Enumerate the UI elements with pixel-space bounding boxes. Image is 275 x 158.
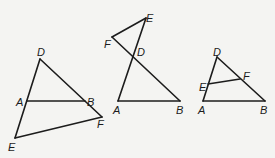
point-label-B: B: [176, 104, 183, 116]
point-label-A: A: [197, 104, 205, 116]
segment-EF: [208, 79, 240, 84]
point-label-F: F: [104, 38, 112, 50]
figure-3: DEFAB: [197, 46, 267, 116]
point-label-F: F: [243, 70, 251, 82]
segment-DB: [217, 57, 265, 101]
figure-2: EFDAB: [104, 12, 183, 116]
segment-DA: [203, 57, 217, 101]
point-label-D: D: [137, 46, 145, 58]
point-label-F: F: [97, 118, 105, 130]
segment-EF: [15, 117, 102, 138]
point-label-A: A: [15, 96, 23, 108]
segment-FB: [112, 37, 180, 101]
point-label-D: D: [213, 46, 221, 58]
point-label-B: B: [87, 96, 94, 108]
point-label-E: E: [8, 141, 16, 153]
triangle-figures: DABFEEFDABDEFAB: [0, 0, 275, 158]
point-label-B: B: [260, 104, 267, 116]
figure-1: DABFE: [8, 46, 105, 153]
segment-DF: [40, 59, 102, 117]
point-label-D: D: [37, 46, 45, 58]
point-label-A: A: [112, 104, 120, 116]
point-label-E: E: [146, 12, 154, 24]
geometry-diagram: DABFEEFDABDEFAB: [0, 0, 275, 158]
point-label-E: E: [199, 81, 207, 93]
